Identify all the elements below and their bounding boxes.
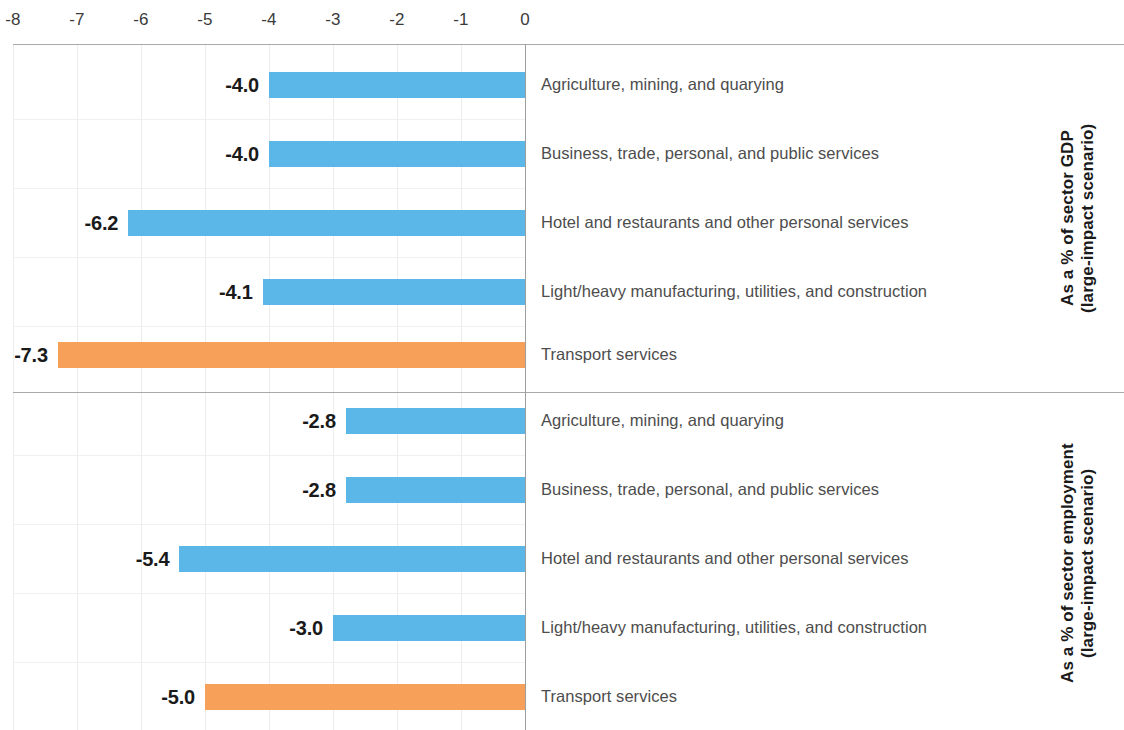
panel-sector-employment: -2.8Agriculture, mining, and quarying-2.… (0, 392, 1124, 730)
bar-row[interactable]: -4.0Agriculture, mining, and quarying (0, 72, 1124, 98)
x-axis-tick-3: -5 (197, 10, 213, 30)
bar-row[interactable]: -7.3Transport services (0, 342, 1124, 368)
bar-category-label: Transport services (541, 345, 677, 364)
bar-value-label: -7.3 (14, 344, 48, 367)
bar[interactable] (205, 684, 525, 710)
x-axis-tick-7: -1 (453, 10, 469, 30)
bar-category-label: Business, trade, personal, and public se… (541, 144, 879, 163)
horizontal-gridline (13, 326, 525, 327)
horizontal-gridline (13, 455, 525, 456)
bar-category-label: Agriculture, mining, and quarying (541, 75, 784, 94)
bar-value-label: -4.0 (225, 74, 259, 97)
bar-value-label: -5.0 (161, 686, 195, 709)
bar-value-label: -2.8 (302, 479, 336, 502)
bar-row[interactable]: -2.8Agriculture, mining, and quarying (0, 408, 1124, 434)
bar-row[interactable]: -3.0Light/heavy manufacturing, utilities… (0, 615, 1124, 641)
horizontal-gridline (13, 593, 525, 594)
horizontal-gridline (13, 257, 525, 258)
horizontal-gridline (13, 119, 525, 120)
horizontal-gridline (13, 662, 525, 663)
bar-row[interactable]: -4.1Light/heavy manufacturing, utilities… (0, 279, 1124, 305)
bar[interactable] (263, 279, 525, 305)
bar[interactable] (269, 72, 525, 98)
x-axis-tick-0: -8 (5, 10, 21, 30)
bar-row[interactable]: -2.8Business, trade, personal, and publi… (0, 477, 1124, 503)
horizontal-gridline (13, 188, 525, 189)
x-axis-tick-8: 0 (520, 10, 530, 30)
bar-row[interactable]: -5.0Transport services (0, 684, 1124, 710)
bar-category-label: Hotel and restaurants and other personal… (541, 549, 909, 568)
panel-axis-title-employment: As a % of sector employment (large-impac… (1058, 402, 1098, 724)
horizontal-gridline (13, 524, 525, 525)
x-axis-tick-5: -3 (325, 10, 341, 30)
bar-category-label: Hotel and restaurants and other personal… (541, 213, 909, 232)
bar-row[interactable]: -5.4Hotel and restaurants and other pers… (0, 546, 1124, 572)
bar-row[interactable]: -6.2Hotel and restaurants and other pers… (0, 210, 1124, 236)
panel-axis-title-gdp: As a % of sector GDP (large-impact scena… (1058, 58, 1098, 378)
bar[interactable] (346, 477, 525, 503)
bar-value-label: -4.0 (225, 143, 259, 166)
bar-value-label: -2.8 (302, 410, 336, 433)
bar-value-label: -5.4 (136, 548, 170, 571)
panel-sector-gdp: -4.0Agriculture, mining, and quarying-4.… (0, 44, 1124, 392)
bar[interactable] (128, 210, 525, 236)
bar[interactable] (179, 546, 525, 572)
x-axis-tick-2: -6 (133, 10, 149, 30)
x-axis-tick-4: -4 (261, 10, 277, 30)
bar-category-label: Agriculture, mining, and quarying (541, 411, 784, 430)
bar[interactable] (346, 408, 525, 434)
bar-category-label: Business, trade, personal, and public se… (541, 480, 879, 499)
bar-category-label: Light/heavy manufacturing, utilities, an… (541, 618, 927, 637)
x-axis-tick-6: -2 (389, 10, 405, 30)
x-axis-tick-labels: -8-7-6-5-4-3-2-10 (0, 0, 1124, 44)
bar-value-label: -3.0 (289, 617, 323, 640)
bar[interactable] (58, 342, 525, 368)
bar-value-label: -4.1 (219, 281, 253, 304)
bar-value-label: -6.2 (85, 212, 119, 235)
bar-category-label: Transport services (541, 687, 677, 706)
x-axis-tick-1: -7 (69, 10, 85, 30)
chart-canvas: -8-7-6-5-4-3-2-10 -4.0Agriculture, minin… (0, 0, 1124, 730)
bar-category-label: Light/heavy manufacturing, utilities, an… (541, 282, 927, 301)
bar[interactable] (333, 615, 525, 641)
bar[interactable] (269, 141, 525, 167)
bar-row[interactable]: -4.0Business, trade, personal, and publi… (0, 141, 1124, 167)
